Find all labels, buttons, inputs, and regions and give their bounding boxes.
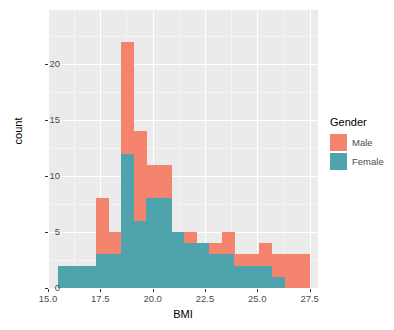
x-tick-mark xyxy=(153,289,154,292)
bar-segment xyxy=(285,254,298,288)
y-tick-label: 10 xyxy=(49,171,60,181)
legend-item[interactable]: Male xyxy=(330,134,384,151)
bar-segment xyxy=(159,165,172,199)
y-tick-label: 15 xyxy=(49,115,60,125)
x-tick-label: 20.0 xyxy=(133,294,173,304)
bar-segment xyxy=(222,232,235,254)
legend: Gender MaleFemale xyxy=(330,116,384,172)
legend-item[interactable]: Female xyxy=(330,153,384,170)
y-tick-mark xyxy=(45,120,48,121)
legend-color-swatch xyxy=(330,153,347,170)
gridline-y-minor xyxy=(48,148,318,149)
gridline-x-major xyxy=(310,10,311,289)
legend-item-label: Male xyxy=(352,137,373,148)
histogram-chart: 05101520 15.017.520.022.525.027.5 count … xyxy=(0,0,394,330)
y-tick-mark xyxy=(45,176,48,177)
bar-segment xyxy=(146,165,159,199)
bar-segment xyxy=(58,266,71,288)
legend-items: MaleFemale xyxy=(330,134,384,170)
x-tick-label: 22.5 xyxy=(185,294,225,304)
bar-segment xyxy=(96,198,109,254)
bar-segment xyxy=(146,198,159,288)
bar-segment xyxy=(84,266,97,288)
bar-segment xyxy=(259,266,272,288)
x-tick-label: 15.0 xyxy=(28,294,68,304)
bar-segment xyxy=(184,232,197,243)
y-axis-title: count xyxy=(12,101,24,161)
bar-segment xyxy=(259,243,272,265)
x-tick-label: 27.5 xyxy=(290,294,330,304)
legend-item-label: Female xyxy=(352,156,384,167)
bar-segment xyxy=(71,266,84,288)
x-tick-label: 17.5 xyxy=(80,294,120,304)
y-tick-mark xyxy=(45,64,48,65)
plot-panel xyxy=(48,10,318,289)
legend-color-swatch xyxy=(330,134,347,151)
bar-segment xyxy=(222,254,235,288)
bar-segment xyxy=(272,254,285,276)
bar-segment xyxy=(209,254,222,288)
bar-segment xyxy=(109,232,122,254)
gridline-y-minor xyxy=(48,36,318,37)
bar-segment xyxy=(234,266,247,288)
x-tick-label: 25.0 xyxy=(237,294,277,304)
y-tick-mark xyxy=(45,232,48,233)
bar-segment xyxy=(109,254,122,288)
bar-segment xyxy=(134,131,147,221)
gridline-y-major xyxy=(48,176,318,177)
bar-segment xyxy=(234,254,247,265)
gridline-y-minor xyxy=(48,204,318,205)
gridline-y-major xyxy=(48,120,318,121)
bar-segment xyxy=(272,277,285,288)
x-tick-mark xyxy=(100,289,101,292)
gridline-y-major xyxy=(48,64,318,65)
gridline-y-major xyxy=(48,288,318,289)
legend-title: Gender xyxy=(330,116,384,128)
bar-segment xyxy=(121,42,134,154)
bar-segment xyxy=(171,232,184,288)
gridline-y-minor xyxy=(48,92,318,93)
bar-segment xyxy=(297,254,310,288)
bar-segment xyxy=(159,198,172,288)
y-tick-label: 0 xyxy=(55,283,60,293)
bar-segment xyxy=(247,254,260,265)
gridline-x-minor xyxy=(74,10,75,289)
x-tick-mark xyxy=(205,289,206,292)
bar-segment xyxy=(197,243,210,288)
gridline-x-minor xyxy=(283,10,284,289)
bar-segment xyxy=(121,154,134,288)
y-tick-label: 5 xyxy=(55,227,60,237)
bar-segment xyxy=(96,254,109,288)
y-tick-label: 20 xyxy=(49,59,60,69)
bar-segment xyxy=(209,243,222,254)
bar-segment xyxy=(184,243,197,288)
gridline-x-major xyxy=(48,10,49,289)
gridline-x-major xyxy=(257,10,258,289)
x-tick-mark xyxy=(310,289,311,292)
x-tick-mark xyxy=(48,289,49,292)
x-tick-mark xyxy=(257,289,258,292)
bar-segment xyxy=(134,221,147,288)
x-axis-title: BMI xyxy=(48,308,318,320)
bar-segment xyxy=(247,266,260,288)
